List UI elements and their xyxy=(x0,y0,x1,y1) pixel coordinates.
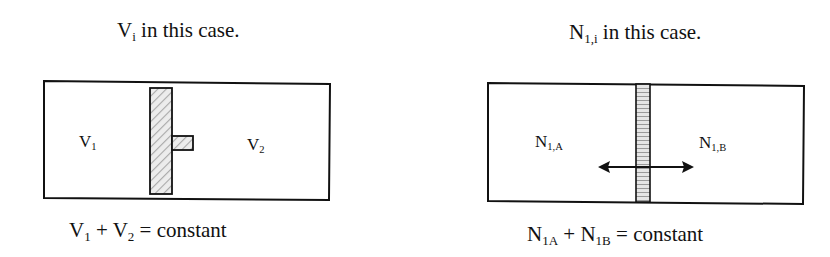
membrane xyxy=(636,84,650,202)
label-n1b: N1,B xyxy=(699,133,726,153)
right-equation: N1A + N1B = constant xyxy=(527,222,703,247)
label-n1a: N1,A xyxy=(535,132,563,152)
piston xyxy=(150,88,193,194)
label-v2: V2 xyxy=(247,135,265,155)
right-title: N1,i in this case. xyxy=(569,20,701,45)
left-equation: V1 + V2 = constant xyxy=(69,218,227,243)
left-title: Vi in this case. xyxy=(117,18,240,43)
label-v1: V1 xyxy=(79,132,97,152)
